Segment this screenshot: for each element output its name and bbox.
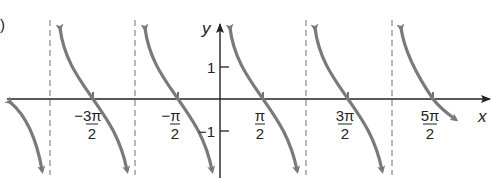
tick-5pi2-num: 5π (421, 107, 440, 124)
tick-5pi2-den: 2 (426, 125, 434, 142)
tick-pi2-num: π (255, 107, 265, 124)
tick-negpi2-num: −π (161, 107, 180, 124)
tick-neg3pi2-den: 2 (88, 125, 96, 142)
y-tick-label-neg1: −1 (198, 123, 215, 140)
asymptotes (50, 20, 392, 175)
tick-3pi2-num: 3π (336, 107, 355, 124)
y-axis-label: y (201, 19, 212, 38)
y-tick-label-1: 1 (207, 59, 215, 76)
tick-3pi2-den: 2 (341, 125, 349, 142)
curve-branch-6 (401, 28, 455, 119)
panel-label: ) (0, 16, 5, 33)
x-tick-labels: −3π 2 −π 2 π 2 3π 2 5π 2 (74, 107, 439, 142)
tick-neg3pi2-num: −3π (74, 107, 101, 124)
curve-branch-1 (10, 102, 42, 170)
x-axis-label: x (477, 107, 487, 126)
tick-pi2-den: 2 (256, 125, 264, 142)
tick-negpi2-den: 2 (171, 125, 179, 142)
cot-graph: ) y x 1 −1 −3π 2 −π 2 π (0, 0, 492, 180)
